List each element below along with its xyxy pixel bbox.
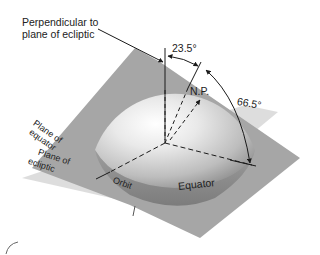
label-perpendicular-1: Perpendicular to [22,16,98,28]
label-north-pole: N.P. [190,85,209,97]
angle-23-arc [168,56,198,66]
label-perpendicular-2: plane of ecliptic [22,28,94,40]
diagram-canvas: Perpendicular to plane of ecliptic 23.5°… [0,0,320,255]
corner-curl-mark [6,242,18,254]
label-angle-23: 23.5° [172,42,197,54]
bottom-tick [133,206,135,216]
